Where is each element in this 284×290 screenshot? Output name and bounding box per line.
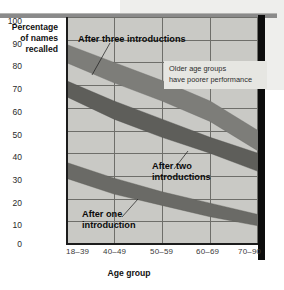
y-tick-10: 10 (0, 221, 22, 230)
x-tick-50-59: 50–59 (150, 247, 173, 256)
x-axis-line (66, 243, 260, 245)
y-tick-80: 80 (0, 62, 22, 71)
series-label-one-line-1: After one (82, 209, 122, 219)
y-tick-30: 30 (0, 176, 22, 185)
y-tick-60: 60 (0, 108, 22, 117)
x-tick-40-49: 40–49 (103, 247, 126, 256)
y-tick-90: 90 (0, 40, 22, 49)
y-tick-20: 20 (0, 199, 22, 208)
y-tick-40: 40 (0, 153, 22, 162)
series-label-after-two-introductions: After two introductions (152, 161, 211, 183)
series-label-after-three-introductions: After three introductions (78, 34, 186, 45)
annotation-line-2: have poorer performance (169, 75, 263, 86)
x-tick-70-90: 70–90 (238, 247, 261, 256)
x-axis-title: Age group (0, 268, 258, 278)
x-tick-18-39: 18–39 (66, 247, 89, 256)
y-tick-0: 0 (0, 240, 22, 249)
y-tick-50: 50 (0, 131, 22, 140)
y-tick-70: 70 (0, 85, 22, 94)
annotation-line-1: Older age groups (169, 64, 263, 75)
series-label-after-one-introduction: After one introduction (82, 209, 136, 231)
y-axis-title: Percentage of names recalled (2, 22, 58, 55)
chart-figure: Percentage of names recalled 100 90 80 7… (0, 0, 284, 290)
x-tick-60-69: 60–69 (196, 247, 219, 256)
figure-page: Percentage of names recalled 100 90 80 7… (0, 0, 284, 290)
series-label-two-line-2: introductions (152, 172, 211, 182)
y-axis-title-line-2: of names (20, 33, 58, 43)
y-axis-title-line-3: recalled (26, 44, 59, 54)
y-tick-100: 100 (0, 17, 22, 26)
plot-right-edge-bar (258, 15, 265, 260)
series-label-one-line-2: introduction (82, 220, 136, 230)
series-label-two-line-1: After two (152, 161, 192, 171)
y-axis-line (66, 17, 68, 244)
annotation-older-age-groups: Older age groups have poorer performance (164, 61, 267, 89)
